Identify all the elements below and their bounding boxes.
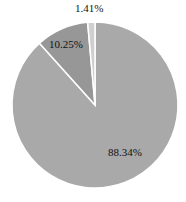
pie-chart: [0, 0, 186, 202]
label-small-slice: 1.41%: [75, 2, 103, 14]
label-large-slice: 88.34%: [108, 146, 142, 158]
label-medium-slice: 10.25%: [49, 38, 83, 50]
